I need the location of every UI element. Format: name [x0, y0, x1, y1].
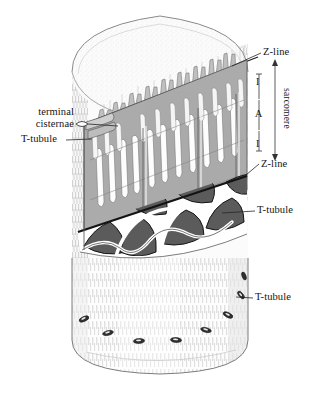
label-z-line-bottom: Z-line [261, 158, 287, 170]
label-z-line-top: Z-line [263, 46, 289, 58]
label-band-i-upper: I [256, 76, 259, 87]
terminal-cisternae-line-1: terminal [38, 106, 74, 117]
label-band-i-lower: I [256, 138, 259, 149]
label-band-a: A [255, 108, 262, 119]
muscle-fiber-diagram: terminal cisternae T-tubule Z-line Z-lin… [0, 0, 319, 397]
diagram-artwork [0, 0, 319, 397]
label-t-tubule-mid-right: T-tubule [257, 204, 293, 216]
terminal-cisternae-line-2: cisternae [36, 118, 74, 129]
label-t-tubule-lower-right: T-tubule [255, 291, 291, 303]
label-terminal-cisternae: terminal cisternae [14, 106, 74, 129]
label-t-tubule-left: T-tubule [21, 133, 57, 145]
label-sarcomere: sarcomere [282, 88, 292, 129]
